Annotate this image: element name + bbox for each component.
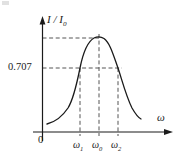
x-tick-label-omega1-base: ω [73,139,80,150]
resonance-curve-path [47,37,141,124]
x-tick-label-omega0-base: ω [92,139,99,150]
y-axis-arrow-icon [40,16,46,25]
x-axis-caption: ω [157,112,165,123]
x-tick-label-omega2: ω2 [111,140,121,153]
x-tick-label-omega0-subscript: 0 [99,145,102,152]
plot-canvas [0,0,181,163]
x-axis-arrow-icon [164,129,173,135]
y-axis-caption: I / I0 [47,14,66,28]
x-tick-label-omega2-base: ω [111,139,118,150]
x-tick-label-omega0: ω0 [92,140,102,153]
y-axis-caption-subscript: 0 [63,20,67,28]
x-tick-label-omega2-subscript: 2 [118,145,121,152]
resonance-curve-figure: I / I0 0.707 0 ω ω1 ω0 ω2 [0,0,181,163]
y-axis-caption-base: I / I [47,13,63,25]
x-tick-label-omega1-subscript: 1 [80,145,83,152]
y-axis-value-label-0707: 0.707 [8,62,32,73]
origin-label: 0 [38,135,43,146]
x-tick-label-omega1: ω1 [73,140,83,153]
